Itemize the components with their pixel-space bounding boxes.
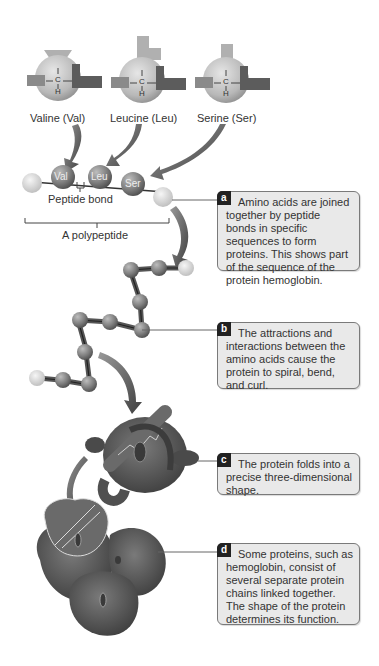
callout-b: b The attractions and interactions betwe… xyxy=(217,322,360,389)
valine-structure-icon xyxy=(27,50,102,101)
amino-acid-bead xyxy=(153,187,173,207)
callout-a: a Amino acids are joined together by pep… xyxy=(217,191,360,271)
leucine-structure-icon xyxy=(111,36,186,103)
hydrogen-label: H xyxy=(55,87,61,96)
callout-b-text: The attractions and interactions between… xyxy=(226,327,353,392)
arrow-icon xyxy=(106,124,142,166)
leucine-label: Leucine (Leu) xyxy=(110,112,177,124)
polypeptide-label: A polypeptide xyxy=(62,229,128,241)
callout-c: c The protein folds into a precise three… xyxy=(217,453,360,495)
ser-bead-label: Ser xyxy=(125,178,141,189)
hemoglobin-protein-icon xyxy=(37,499,166,636)
arrow-icon xyxy=(170,206,188,268)
peptide-bond-label: Peptide bond xyxy=(48,193,113,205)
leu-bead-label: Leu xyxy=(91,171,108,182)
arrow-icon xyxy=(150,124,226,180)
callout-c-badge: c xyxy=(217,453,231,467)
valine-label: Valine (Val) xyxy=(30,112,85,124)
carbon-label: C xyxy=(223,77,229,86)
arrow-icon xyxy=(98,352,142,414)
serine-structure-icon xyxy=(195,44,270,103)
callout-d-badge: d xyxy=(217,543,231,557)
callout-d: d Some proteins, such as hemoglobin, con… xyxy=(217,543,360,625)
folded-protein-icon xyxy=(85,412,199,501)
arrow-icon xyxy=(64,124,81,172)
val-bead-label: Val xyxy=(54,171,68,182)
callout-b-badge: b xyxy=(217,322,231,336)
serine-label: Serine (Ser) xyxy=(197,112,256,124)
callout-a-badge: a xyxy=(217,191,231,205)
amino-acid-bead xyxy=(22,173,42,193)
callout-c-text: The protein folds into a precise three-d… xyxy=(226,458,353,497)
hydrogen-label: H xyxy=(223,89,229,98)
carbon-label: C xyxy=(139,77,145,86)
coiled-chain-icon xyxy=(29,260,194,392)
callout-d-text: Some proteins, such as hemoglobin, consi… xyxy=(226,548,353,626)
hydrogen-label: H xyxy=(139,89,145,98)
callout-a-text: Amino acids are joined together by pepti… xyxy=(226,196,353,287)
carbon-label: C xyxy=(55,75,61,84)
